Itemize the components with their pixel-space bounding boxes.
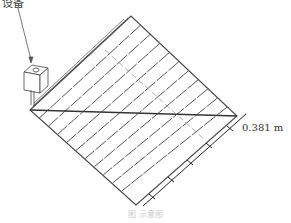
dimension-line (143, 114, 246, 206)
pipes (39, 25, 227, 191)
centerline (105, 50, 205, 140)
pointer-arrow (18, 8, 33, 63)
top-dimension-line (34, 19, 124, 103)
spacing-dimension-label: 0.381 m (242, 122, 283, 133)
device-box-icon (24, 65, 48, 106)
device-label: 设备 (2, 0, 24, 10)
irrigation-grid-diagram (0, 0, 291, 223)
figure-caption: 图 示意图 (128, 208, 163, 219)
